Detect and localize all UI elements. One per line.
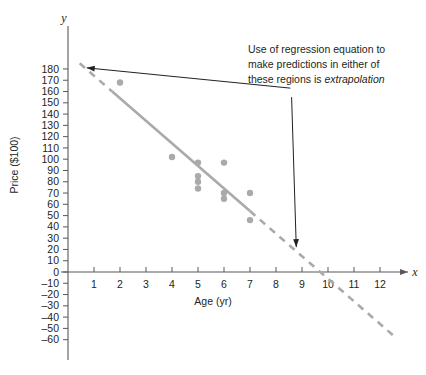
y-tick-label: 0 [53, 266, 59, 278]
regression-dashed-segment [80, 63, 113, 91]
x-tick-label: 5 [195, 278, 201, 290]
scatter-points [117, 79, 253, 223]
x-tick-label: 12 [374, 278, 386, 290]
y-tick-label: 180 [41, 63, 59, 75]
y-tick-label: –40 [41, 311, 59, 323]
data-point [247, 217, 253, 223]
data-point [221, 195, 227, 201]
x-tick-label: 6 [221, 278, 227, 290]
x-axis-letter: x [411, 265, 418, 279]
data-point [221, 159, 227, 165]
annotation-line-3: these regions is extrapolation [248, 73, 385, 85]
data-point [195, 173, 201, 179]
x-tick-label: 1 [91, 278, 97, 290]
x-axis-arrowhead [400, 269, 408, 275]
y-tick-label: 70 [47, 187, 59, 199]
y-tick-label: 110 [42, 142, 59, 154]
y-axis-tick-labels: 1801701601501401301201101009080706050403… [41, 63, 59, 346]
x-tick-label: 3 [143, 278, 149, 290]
annotation-line-2: make predictions in either of [248, 58, 379, 70]
data-point [195, 179, 201, 185]
y-tick-label: 140 [41, 108, 59, 120]
x-tick-label: 11 [349, 278, 360, 290]
y-axis-title: Price ($100) [8, 136, 20, 193]
annotation-line-3-text: these regions is [248, 73, 324, 85]
x-tick-label: 8 [273, 278, 279, 290]
y-tick-label: –60 [41, 333, 59, 345]
x-tick-label: 2 [117, 278, 123, 290]
y-tick-label: –30 [41, 299, 59, 311]
annotation-leader-line [292, 97, 297, 247]
data-point [169, 154, 175, 160]
annotation-arrowhead [87, 66, 95, 72]
y-tick-label: –10 [41, 277, 59, 289]
annotation-arrowhead [293, 239, 299, 247]
y-tick-label: 20 [47, 243, 59, 255]
y-tick-label: 10 [47, 254, 59, 266]
data-point [221, 190, 227, 196]
y-tick-label: –20 [41, 288, 59, 300]
regression-dashed-segment [250, 211, 396, 337]
data-point [195, 185, 201, 191]
x-axis-ticks [94, 267, 380, 272]
data-point [195, 159, 201, 165]
y-tick-label: 150 [41, 96, 59, 108]
y-tick-label: 170 [41, 74, 59, 86]
y-tick-label: 40 [47, 220, 59, 232]
extrapolation-annotation: Use of regression equation to make predi… [248, 43, 385, 85]
chart-canvas: 1801701601501401301201101009080706050403… [0, 0, 426, 375]
regression-extrapolation-figure: 1801701601501401301201101009080706050403… [0, 0, 426, 375]
x-axis-tick-labels: 123456789101112 [91, 278, 386, 290]
x-axis-title: Age (yr) [194, 295, 231, 307]
y-tick-label: 30 [47, 232, 59, 244]
data-point [117, 79, 123, 85]
annotation-emphasis-word: extrapolation [324, 73, 384, 85]
y-tick-label: 50 [47, 209, 59, 221]
y-tick-label: 60 [47, 198, 59, 210]
y-tick-label: 120 [41, 130, 59, 142]
annotation-leader-lines [87, 66, 299, 247]
x-tick-label: 7 [247, 278, 253, 290]
y-tick-label: 80 [47, 175, 59, 187]
y-tick-label: –50 [41, 322, 59, 334]
y-axis-ticks [63, 69, 68, 340]
y-axis-letter: y [60, 11, 67, 25]
annotation-line-1: Use of regression equation to [248, 43, 385, 55]
x-tick-label: 9 [299, 278, 305, 290]
regression-solid-segment [112, 92, 250, 212]
regression-line-group [80, 63, 396, 337]
y-tick-label: 160 [41, 85, 59, 97]
x-tick-label: 4 [169, 278, 175, 290]
y-tick-label: 130 [41, 119, 59, 131]
y-tick-label: 90 [47, 164, 59, 176]
y-tick-label: 100 [41, 153, 59, 165]
data-point [247, 190, 253, 196]
